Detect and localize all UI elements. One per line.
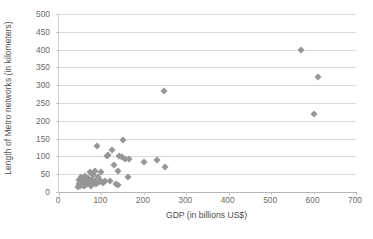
x-tick-label: 300 (178, 195, 192, 205)
gridline-y (59, 14, 356, 15)
gridline-y (59, 121, 356, 122)
data-point (109, 146, 116, 153)
scatter-chart: Length of Metro networks (in kilometers)… (0, 0, 373, 239)
y-tick-label: 500 (36, 9, 50, 19)
x-tick-label: 200 (136, 195, 150, 205)
data-point (310, 111, 317, 118)
y-tick-mark (56, 103, 59, 104)
gridline-y (59, 67, 356, 68)
y-tick-label: 250 (36, 98, 50, 108)
gridline-y (59, 103, 356, 104)
y-tick-mark (56, 14, 59, 15)
x-axis-tick-labels: 0100200300400500600700 (58, 195, 358, 209)
y-axis-title-label: Length of Metro networks (in kilometers) (3, 21, 13, 174)
data-point (94, 142, 101, 149)
y-tick-label: 50 (41, 169, 50, 179)
y-tick-label: 150 (36, 134, 50, 144)
y-axis-tick-labels: 050100150200250300350400450500 (16, 0, 54, 200)
y-tick-label: 200 (36, 116, 50, 126)
x-tick-label: 0 (56, 195, 61, 205)
y-axis-title: Length of Metro networks (in kilometers) (0, 0, 16, 196)
gridline-y (59, 174, 356, 175)
y-tick-label: 450 (36, 27, 50, 37)
y-tick-mark (56, 174, 59, 175)
gridline-y (59, 32, 356, 33)
data-point (124, 174, 131, 181)
x-axis-title: GDP (in billions US$) (58, 210, 355, 220)
x-tick-label: 600 (306, 195, 320, 205)
x-tick-label: 100 (93, 195, 107, 205)
y-tick-mark (56, 67, 59, 68)
x-tick-label: 500 (263, 195, 277, 205)
data-point (140, 158, 147, 165)
data-point (162, 164, 169, 171)
y-tick-label: 350 (36, 62, 50, 72)
data-point (297, 46, 304, 53)
y-tick-mark (56, 121, 59, 122)
plot-area (58, 14, 356, 193)
x-tick-label: 700 (348, 195, 362, 205)
y-tick-label: 0 (45, 187, 50, 197)
y-tick-mark (56, 32, 59, 33)
data-point (161, 87, 168, 94)
gridline-y (59, 50, 356, 51)
y-tick-mark (56, 139, 59, 140)
y-tick-mark (56, 50, 59, 51)
data-point (314, 73, 321, 80)
y-tick-mark (56, 85, 59, 86)
data-point (120, 136, 127, 143)
gridline-y (59, 85, 356, 86)
x-tick-label: 400 (221, 195, 235, 205)
y-tick-mark (56, 156, 59, 157)
gridline-y (59, 139, 356, 140)
y-tick-label: 300 (36, 80, 50, 90)
y-tick-label: 100 (36, 151, 50, 161)
y-tick-label: 400 (36, 45, 50, 55)
data-point (115, 181, 122, 188)
data-point (154, 156, 161, 163)
